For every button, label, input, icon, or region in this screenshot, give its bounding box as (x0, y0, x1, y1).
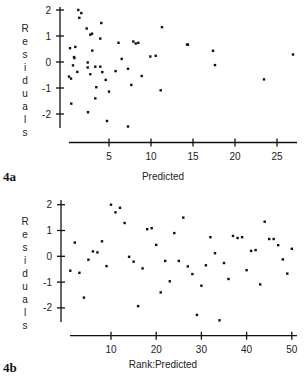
data-point (78, 17, 80, 19)
data-point (69, 270, 71, 272)
data-point (169, 280, 171, 282)
data-point (214, 252, 216, 254)
y-axis-label-letter: s (23, 127, 28, 138)
data-point (99, 66, 101, 68)
data-point (164, 260, 166, 262)
data-point (232, 235, 234, 237)
data-point (94, 97, 96, 99)
data-point (110, 204, 112, 206)
data-point (89, 73, 91, 75)
data-point (74, 46, 76, 48)
data-point (241, 236, 243, 238)
y-axis-label-letter: l (24, 114, 26, 125)
data-point (132, 261, 134, 263)
data-point (245, 269, 247, 271)
figure-label: 4a (3, 169, 17, 184)
scatter-plot-4a: Residuals 210-1-2 510152025 Predicted 4a (0, 0, 305, 190)
data-point (70, 77, 72, 79)
data-point (191, 273, 193, 275)
y-axis-label-letter: e (22, 229, 28, 240)
data-point (155, 244, 157, 246)
data-point (200, 285, 202, 287)
data-point (227, 278, 229, 280)
y-ticks: 210-1-2 (43, 199, 65, 313)
x-axis-label: Rank:Predicted (129, 359, 197, 370)
y-axis-label-letter: l (24, 307, 26, 318)
data-point (105, 79, 107, 81)
y-axis-label-letter: d (22, 268, 28, 279)
data-points (69, 204, 293, 322)
data-point (105, 265, 107, 267)
data-point (87, 259, 89, 261)
data-point (160, 291, 162, 293)
data-point (132, 40, 134, 42)
data-point (264, 221, 266, 223)
data-point (273, 238, 275, 240)
y-tick-label: 2 (46, 199, 52, 210)
data-point (91, 33, 93, 35)
y-tick-label: -2 (43, 302, 52, 313)
data-point (95, 86, 97, 88)
data-point (73, 57, 75, 59)
y-axis-label-letter: s (23, 49, 28, 60)
data-point (128, 256, 130, 258)
data-point (78, 272, 80, 274)
data-point (72, 64, 74, 66)
y-axis-label-letter: i (24, 62, 26, 73)
data-point (146, 228, 148, 230)
x-tick-label: 5 (106, 151, 112, 162)
x-tick-label: 10 (105, 344, 117, 355)
data-point (141, 75, 143, 77)
data-point (277, 244, 279, 246)
data-point (155, 55, 157, 57)
y-axis-label-letter: s (23, 242, 28, 253)
data-point (106, 120, 108, 122)
data-point (149, 55, 151, 57)
data-point (127, 68, 129, 70)
y-axis-label: Residuals (21, 23, 28, 138)
y-axis-label-letter: i (24, 255, 26, 266)
data-point (161, 26, 163, 28)
data-point (292, 53, 294, 55)
data-point (212, 50, 214, 52)
data-point (218, 319, 220, 321)
data-point (87, 111, 89, 113)
data-point (135, 42, 137, 44)
data-point (108, 90, 110, 92)
data-point (74, 241, 76, 243)
data-point (77, 9, 79, 11)
x-tick-label: 10 (145, 151, 157, 162)
data-point (91, 49, 93, 51)
data-point (99, 37, 101, 39)
data-point (123, 222, 125, 224)
x-tick-label: 40 (241, 344, 253, 355)
data-point (254, 249, 256, 251)
data-point (80, 12, 82, 14)
data-point (205, 264, 207, 266)
x-axis-label: Predicted (142, 171, 184, 182)
data-point (236, 237, 238, 239)
y-axis-label-letter: a (22, 294, 28, 305)
data-point (94, 66, 96, 68)
data-point (114, 70, 116, 72)
x-tick-label: 30 (196, 344, 208, 355)
data-point (182, 216, 184, 218)
data-point (87, 66, 89, 68)
data-point (96, 251, 98, 253)
data-point (101, 71, 103, 73)
data-point (137, 305, 139, 307)
y-tick-label: -2 (42, 109, 51, 120)
y-tick-label: -1 (43, 277, 52, 288)
data-point (151, 227, 153, 229)
data-point (76, 71, 78, 73)
data-points (68, 9, 294, 128)
data-point (92, 250, 94, 252)
figure-label: 4b (3, 360, 17, 375)
data-point (250, 250, 252, 252)
data-point (173, 232, 175, 234)
data-point (196, 314, 198, 316)
y-axis-label: Residuals (21, 216, 28, 331)
data-point (119, 207, 121, 209)
x-tick-label: 15 (187, 151, 199, 162)
y-axis-label-letter: u (22, 88, 28, 99)
